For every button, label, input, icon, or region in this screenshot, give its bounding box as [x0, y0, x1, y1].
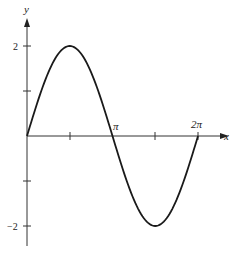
x-tick-label-pi: π: [113, 120, 119, 132]
x-tick-label-2pi: 2π: [191, 118, 203, 130]
y-axis-label: y: [23, 3, 29, 15]
y-tick-label-neg2: −2: [7, 221, 18, 232]
x-axis-label: x: [223, 130, 229, 142]
sine-chart: y x 2 −2 π 2π: [0, 0, 238, 258]
y-tick-label-2: 2: [13, 41, 18, 52]
y-axis-arrow-icon: [24, 18, 30, 27]
